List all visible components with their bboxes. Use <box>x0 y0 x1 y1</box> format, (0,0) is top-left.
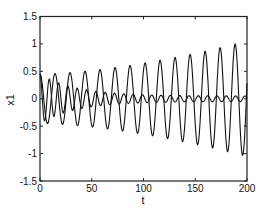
chart: 1.510.50-0.5-1-1.5 050100150200 t x1 <box>0 0 265 210</box>
x-tick-label: 200 <box>239 183 256 194</box>
y-tick-label: -1 <box>28 148 37 159</box>
x-tick-label: 150 <box>187 183 204 194</box>
x-tick-label: 50 <box>86 183 98 194</box>
y-tick-label: 0.5 <box>23 66 37 77</box>
x-tick-label: 100 <box>135 183 152 194</box>
x-axis-label: t <box>141 194 144 206</box>
plot-area: 1.510.50-0.5-1-1.5 050100150200 <box>20 11 256 194</box>
x-tick-label: 0 <box>37 183 43 194</box>
y-tick-label: -1.5 <box>20 176 38 187</box>
x-axis-ticks: 050100150200 <box>37 17 256 195</box>
growing-oscillation-line <box>40 44 247 155</box>
y-tick-label: -0.5 <box>20 121 38 132</box>
series-lines <box>40 44 247 155</box>
y-tick-label: 1.5 <box>23 11 37 22</box>
y-tick-label: 1 <box>31 38 37 49</box>
y-axis-label: x1 <box>4 94 16 106</box>
y-tick-label: 0 <box>31 93 37 104</box>
